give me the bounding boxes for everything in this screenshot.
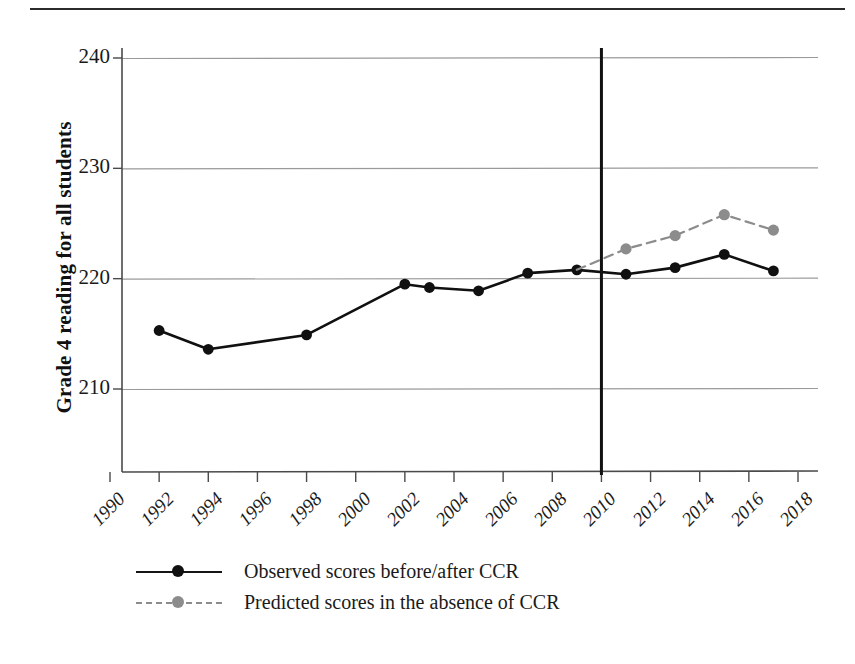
x-tick-label: 1994 <box>173 488 228 543</box>
x-tick-label: 2006 <box>468 488 523 543</box>
legend-label-predicted: Predicted scores in the absence of CCR <box>244 591 559 614</box>
x-tick-label: 2000 <box>320 488 375 543</box>
legend-label-observed: Observed scores before/after CCR <box>244 560 519 583</box>
legend-item-observed: Observed scores before/after CCR <box>136 556 696 587</box>
legend-item-predicted: Predicted scores in the absence of CCR <box>136 587 696 618</box>
x-tick-label: 2002 <box>369 488 424 543</box>
x-tick-label: 2010 <box>566 488 621 543</box>
x-tick-label: 2012 <box>615 488 670 543</box>
legend-marker-circle-icon <box>172 596 184 608</box>
x-tick-label: 1992 <box>124 488 179 543</box>
legend-marker-circle-icon <box>172 565 184 577</box>
y-axis-title: Grade 4 reading for all students <box>52 58 77 478</box>
x-tick-label: 2008 <box>517 488 572 543</box>
x-tick-label: 2016 <box>713 488 768 543</box>
x-tick-label: 1998 <box>271 488 326 543</box>
chart-legend: Observed scores before/after CCR Predict… <box>136 556 696 618</box>
x-tick-label: 2004 <box>418 488 473 543</box>
x-tick-label: 2014 <box>664 488 719 543</box>
legend-swatch-predicted <box>136 593 222 613</box>
figure-root: 210220230240 199019921994199619982000200… <box>0 0 855 664</box>
x-tick-label: 2018 <box>762 488 817 543</box>
x-axis-tick-labels: 1990199219941996199820002002200420062008… <box>0 0 855 540</box>
chart-plot-area: 210220230240 199019921994199619982000200… <box>0 0 855 540</box>
x-tick-label: 1996 <box>222 488 277 543</box>
x-tick-label: 1990 <box>74 488 129 543</box>
legend-swatch-observed <box>136 562 222 582</box>
